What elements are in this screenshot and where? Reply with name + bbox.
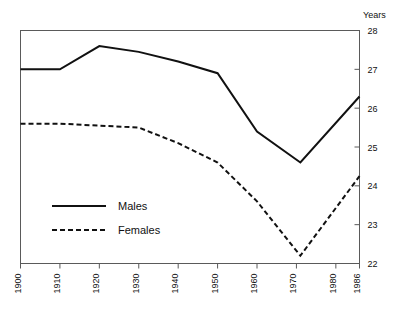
y-axis-title: Years (363, 10, 386, 20)
series-line-males (21, 46, 360, 163)
y-tick-label: 28 (368, 26, 378, 36)
x-tick-label: 1930 (131, 274, 141, 294)
x-tick-label: 1920 (91, 274, 101, 294)
chart-legend: Males Females (52, 200, 161, 236)
x-tick-label: 1900 (13, 274, 23, 294)
x-tick-label: 1940 (170, 274, 180, 294)
y-tick-label: 24 (368, 181, 378, 191)
x-tick-label: 1970 (288, 274, 298, 294)
x-tick-label: 1950 (210, 274, 220, 294)
legend-label-females: Females (118, 224, 161, 236)
x-tick-label: 1980 (328, 274, 338, 294)
x-tick-label: 1910 (52, 274, 62, 294)
y-axis-ticks: 22232425262728 (355, 26, 378, 269)
y-tick-label: 27 (368, 65, 378, 75)
x-axis-ticks: 1900191019201930194019501960197019801986 (13, 264, 362, 294)
y-tick-label: 23 (368, 220, 378, 230)
chart-container: 22232425262728 1900191019201930194019501… (0, 0, 402, 313)
y-tick-label: 25 (368, 143, 378, 153)
y-tick-label: 22 (368, 259, 378, 269)
series-line-females (21, 124, 360, 256)
legend-label-males: Males (118, 200, 148, 212)
x-tick-label: 1960 (249, 274, 259, 294)
line-chart: 22232425262728 1900191019201930194019501… (0, 0, 402, 313)
x-tick-label: 1986 (352, 274, 362, 294)
y-tick-label: 26 (368, 104, 378, 114)
